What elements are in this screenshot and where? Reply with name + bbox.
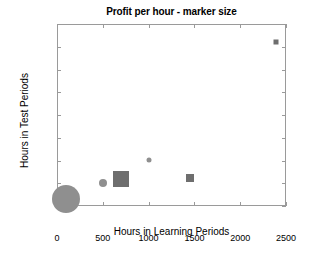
x-axis-title: Hours in Learning Periods	[57, 226, 286, 237]
plot-area: 0100200300400500600700800050010001500200…	[57, 24, 286, 206]
y-axis-tick-right	[282, 161, 286, 162]
x-axis-tick	[103, 202, 104, 206]
x-axis-tick	[286, 202, 287, 206]
y-axis-tick	[57, 138, 61, 139]
data-point-marker	[113, 171, 129, 187]
data-point-marker	[146, 157, 151, 162]
x-axis-tick-top	[194, 24, 195, 28]
y-axis-tick-right	[282, 183, 286, 184]
y-axis-tick-right	[282, 138, 286, 139]
data-point-marker	[52, 185, 80, 213]
x-axis-tick	[149, 202, 150, 206]
y-axis-tick-right	[282, 92, 286, 93]
y-axis-tick	[57, 47, 61, 48]
y-axis-tick	[57, 70, 61, 71]
x-axis-tick-top	[240, 24, 241, 28]
y-axis-tick	[57, 115, 61, 116]
x-axis-tick-top	[286, 24, 287, 28]
y-axis-tick	[57, 161, 61, 162]
y-axis-title: Hours in Test Periods	[19, 41, 30, 201]
x-axis-tick-top	[149, 24, 150, 28]
chart-figure: Profit per hour - marker size 0100200300…	[0, 0, 310, 256]
data-point-marker	[186, 174, 194, 182]
y-axis-tick-right	[282, 47, 286, 48]
y-axis-tick	[57, 183, 61, 184]
x-axis-tick-top	[57, 24, 58, 28]
chart-title: Profit per hour - marker size	[57, 6, 286, 17]
data-point-marker	[99, 179, 107, 187]
x-axis-tick-top	[103, 24, 104, 28]
x-axis-tick	[194, 202, 195, 206]
y-axis-tick-right	[282, 70, 286, 71]
x-axis-tick	[240, 202, 241, 206]
data-point-marker	[273, 39, 278, 44]
y-axis-tick-right	[282, 115, 286, 116]
y-axis-tick	[57, 92, 61, 93]
y-axis-tick-right	[282, 206, 286, 207]
